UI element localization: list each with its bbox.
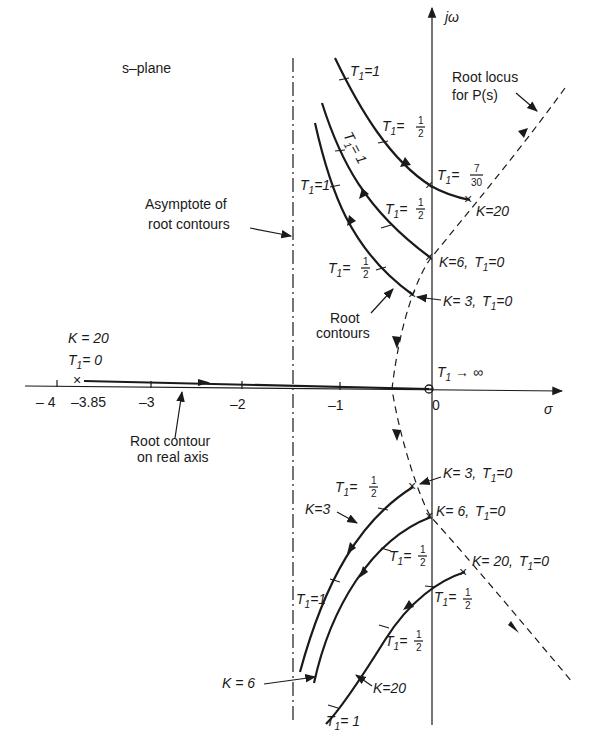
frac-lower-den-4: 2 — [416, 642, 422, 653]
frac-half-den: 2 — [418, 128, 424, 139]
root-locus-annotation-2: for P(s) — [452, 87, 498, 103]
label-k20: K=20 — [476, 203, 509, 219]
label-k6-t1: T1= 1 — [338, 129, 371, 168]
svg-text:×: × — [425, 508, 433, 524]
imag-axis-label: jω — [443, 9, 459, 25]
frac-half-num-3: 1 — [363, 256, 369, 267]
origin-t-label: T1 → ∞ — [437, 364, 483, 383]
label-k3: K= 3,T1=0 — [443, 293, 512, 312]
tick-label-neg385: –3.85 — [71, 394, 106, 410]
frac-lower-den-2: 2 — [420, 557, 426, 568]
label-lower-k20-thalf-a: T1= — [434, 589, 456, 608]
root-contour-diagram: jω σ – 4 –3.85 –3 –2 –1 0 × T1 → ∞ K = 2… — [0, 0, 595, 743]
label-k6-thalf: T1= — [385, 201, 407, 220]
label-k20-thalf: T1= — [382, 118, 404, 137]
plane-label: s–plane — [122, 60, 171, 76]
root-locus-annotation-1: Root locus — [452, 69, 518, 85]
label-lower-k20-curve: K=20 — [373, 680, 406, 696]
frac-lower-num-4: 1 — [416, 629, 422, 640]
origin-label: 0 — [432, 397, 440, 413]
svg-text:×: × — [425, 177, 433, 193]
label-lower-k6: K= 6,T1=0 — [436, 503, 505, 522]
real-contour-annotation-1: Root contour — [130, 433, 210, 449]
frac-lower-num-1: 1 — [371, 475, 377, 486]
real-pole-t-label: T1= 0 — [68, 352, 102, 371]
asymptote-annotation-1: Asymptote of — [145, 196, 227, 212]
tick-label-neg3: –3 — [139, 394, 155, 410]
svg-text:×: × — [408, 286, 416, 302]
label-k20-t730: T1= — [437, 167, 459, 186]
frac-lower-den-3: 2 — [465, 600, 471, 611]
tick-label-neg2: –2 — [230, 396, 246, 412]
tick-label-neg1: –1 — [328, 397, 344, 413]
label-lower-k3: K= 3,T1=0 — [443, 465, 512, 484]
real-axis-label: σ — [544, 401, 553, 417]
frac-730-num: 7 — [474, 163, 480, 174]
frac-lower-num-2: 1 — [420, 544, 426, 555]
frac-lower-den-1: 2 — [371, 488, 377, 499]
root-contours-annotation-2: contours — [316, 325, 370, 341]
label-k3-t1: T1=1 — [300, 177, 330, 196]
tick-label-neg4: – 4 — [36, 394, 56, 410]
label-lower-k20-thalf-b: T1= — [385, 633, 407, 652]
root-contours-annotation-1: Root — [330, 310, 360, 326]
frac-lower-num-3: 1 — [465, 587, 471, 598]
svg-text:×: × — [459, 564, 467, 580]
label-lower-k20-t1: T1= 1 — [326, 713, 360, 732]
label-k3-thalf: T1= — [328, 260, 350, 279]
label-lower-k20: K= 20,T1=0 — [472, 553, 549, 572]
asymptote-annotation-2: root contours — [148, 216, 230, 232]
label-lower-k3-thalf: T1= — [335, 479, 357, 498]
label-k20-t1: T1=1 — [350, 63, 380, 82]
x-marker-icon: × — [73, 372, 81, 388]
frac-half-den-3: 2 — [363, 269, 369, 280]
real-pole-k-label: K = 20 — [68, 330, 109, 346]
svg-text:×: × — [408, 478, 416, 494]
svg-text:×: × — [464, 191, 472, 207]
svg-text:×: × — [425, 249, 433, 265]
frac-730-den: 30 — [471, 177, 483, 188]
label-lower-k6-thalf: T1= — [389, 548, 411, 567]
frac-half-num-2: 1 — [418, 197, 424, 208]
label-lower-k6-curve: K = 6 — [222, 675, 255, 691]
frac-half-num: 1 — [418, 115, 424, 126]
real-contour-annotation-2: on real axis — [137, 449, 209, 465]
label-k6: K=6,T1=0 — [439, 254, 505, 273]
frac-half-den-2: 2 — [418, 210, 424, 221]
label-lower-k3-curve: K=3 — [305, 501, 331, 517]
